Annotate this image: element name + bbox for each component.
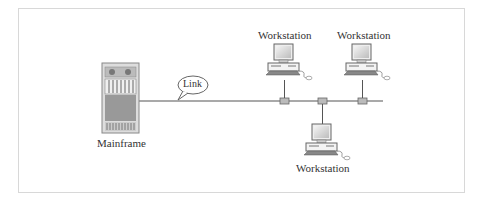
network-diagram — [0, 0, 482, 202]
mainframe-label: Mainframe — [97, 137, 146, 149]
bus-tap-1 — [280, 98, 289, 104]
mainframe-icon — [102, 63, 139, 133]
workstation-label-top-left: Workstation — [258, 29, 312, 41]
bus-tap-3 — [358, 98, 367, 104]
workstation-icon-bottom — [304, 124, 350, 160]
workstation-icon-top-right — [344, 44, 390, 80]
workstation-icon-top-left — [266, 44, 312, 80]
workstation-label-top-right: Workstation — [337, 29, 391, 41]
link-label: Link — [183, 78, 202, 89]
workstation-label-bottom: Workstation — [296, 162, 350, 174]
bus-tap-2 — [318, 98, 327, 104]
